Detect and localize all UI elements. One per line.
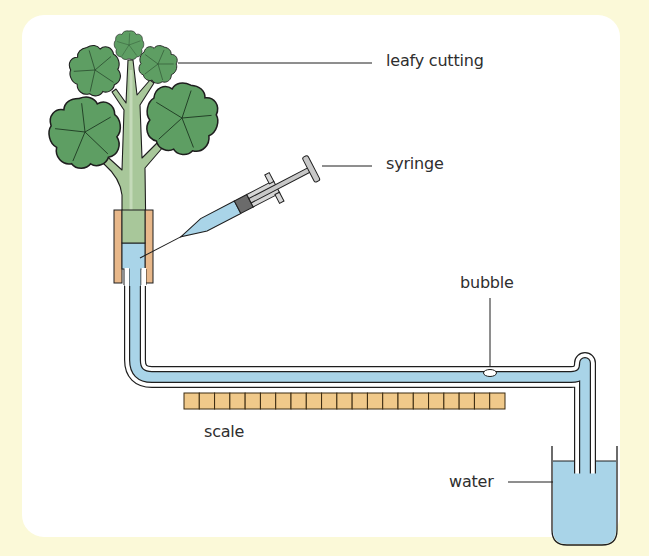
scale-segment: [429, 393, 444, 409]
scale-segment: [276, 393, 291, 409]
scale-segment: [459, 393, 474, 409]
scale-segment: [260, 393, 275, 409]
scale-segment: [337, 393, 352, 409]
capillary-tube: [123, 268, 596, 476]
leaf-large-left: [44, 92, 127, 173]
scale-segment: [444, 393, 459, 409]
scale-segment: [215, 393, 230, 409]
air-bubble: [484, 370, 497, 377]
scale-segment: [490, 393, 505, 409]
scale-segment: [306, 393, 321, 409]
scale-segment: [398, 393, 413, 409]
scale-segment: [230, 393, 245, 409]
scale-segment: [352, 393, 367, 409]
label-leafy-cutting: leafy cutting: [386, 53, 484, 69]
rubber-tubing-joint: [114, 210, 153, 286]
label-bubble: bubble: [460, 275, 514, 291]
leaf-top-bud: [114, 31, 144, 60]
scale-segment: [322, 393, 337, 409]
syringe: [133, 153, 322, 272]
label-syringe: syringe: [386, 156, 444, 172]
scale-segment: [474, 393, 489, 409]
label-scale: scale: [204, 424, 244, 440]
label-water: water: [449, 474, 494, 490]
scale-segment: [199, 393, 214, 409]
potometer-diagram: [0, 0, 649, 556]
scale-segment: [184, 393, 199, 409]
scale-segment: [245, 393, 260, 409]
scale-segment: [367, 393, 382, 409]
scale-segment: [383, 393, 398, 409]
scale-segment: [291, 393, 306, 409]
scale-segment: [413, 393, 428, 409]
measurement-scale: [184, 393, 505, 409]
